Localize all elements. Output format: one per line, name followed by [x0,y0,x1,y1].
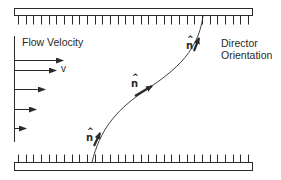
bottom-wall [15,155,253,171]
director-arrows [94,38,199,146]
hat-symbol: ^ [187,36,194,44]
director-arrow-icon [94,133,100,146]
liquid-crystal-flow-diagram [0,0,281,180]
hat-symbol: ^ [87,128,94,136]
director-n-hat-label: ^n [86,133,93,143]
top-wall [15,9,253,25]
flow-velocity-label: Flow Velocity [22,37,83,48]
director-label-line2: Orientation [221,50,272,61]
director-n-hat-label: ^n [186,41,193,51]
flow-velocity-profile [15,36,64,142]
bottom-wall-ticks [19,155,249,163]
velocity-symbol-label: v [61,64,66,74]
top-wall-ticks [19,16,249,25]
hat-symbol: ^ [132,74,139,82]
flow-velocity-arrows [15,61,64,129]
director-label-line1: Director [221,38,258,49]
director-n-hat-label: ^n [131,79,138,89]
